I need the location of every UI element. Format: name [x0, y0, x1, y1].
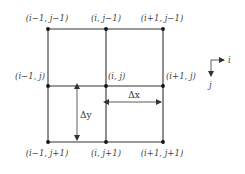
- node-label: (i+1, j−1): [141, 13, 183, 23]
- node-dot: [46, 84, 50, 88]
- delta-y-label: Δy: [80, 110, 92, 120]
- node-label: (i+1, j+1): [141, 148, 183, 158]
- node-label: (i−1, j−1): [26, 13, 68, 23]
- node-dot: [161, 140, 165, 144]
- node-dot: [104, 140, 108, 144]
- node-label: (i, j): [108, 71, 125, 81]
- node-dot: [104, 84, 108, 88]
- i-axis-label: i: [228, 55, 231, 65]
- node-label: (i−1, j): [15, 71, 45, 81]
- finite-difference-grid: (i−1, j−1) (i, j−1) (i+1, j−1) (i−1, j) …: [0, 0, 245, 174]
- node-dot: [161, 27, 165, 31]
- node-label: (i−1, j+1): [26, 148, 68, 158]
- node-dot: [161, 84, 165, 88]
- node-label: (i, j−1): [91, 13, 121, 23]
- node-label: (i+1, j): [166, 71, 196, 81]
- delta-x-dimension: Δx: [108, 90, 161, 102]
- axis-indicator: i j: [207, 55, 231, 90]
- delta-x-label: Δx: [128, 90, 140, 100]
- node-dot: [46, 140, 50, 144]
- j-axis-label: j: [207, 80, 212, 90]
- delta-y-dimension: Δy: [77, 88, 92, 140]
- node-label: (i, j+1): [91, 148, 121, 158]
- node-dot: [104, 27, 108, 31]
- node-dot: [46, 27, 50, 31]
